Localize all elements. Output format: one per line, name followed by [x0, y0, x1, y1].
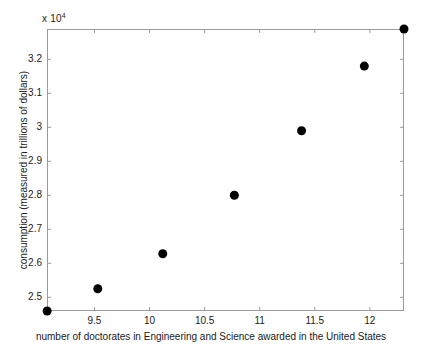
data-point [43, 307, 52, 316]
y-axis-title: consumption (measured in trillions of do… [17, 29, 31, 311]
x-axis-tick-label: 10 [144, 316, 155, 326]
data-point [93, 284, 102, 293]
x-axis-tick-label: 12 [364, 316, 375, 326]
scatter-plot-figure: x 104 2.52.62.72.82.933.13.2 9.51010.511… [0, 0, 422, 355]
y-axis-tick-label-text: 3 [36, 122, 42, 132]
data-point [230, 191, 239, 200]
data-point [400, 25, 409, 34]
data-point [360, 62, 369, 71]
y-axis-title-wrapper: consumption (measured in trillions of do… [17, 29, 31, 311]
x-axis-tick-label: 9.5 [88, 316, 102, 326]
x-axis-tick-label: 11 [254, 316, 264, 326]
x-axis-tick-labels: 9.51010.51111.512 [0, 316, 422, 328]
data-point-series [43, 25, 409, 316]
plot-canvas [0, 0, 422, 355]
data-point [297, 126, 306, 135]
tick-marks [47, 29, 404, 311]
x-axis-title: number of doctorates in Engineering and … [0, 331, 422, 342]
x-axis-tick-label: 10.5 [195, 316, 214, 326]
x-axis-tick-label: 11.5 [305, 316, 324, 326]
data-point [158, 249, 167, 258]
